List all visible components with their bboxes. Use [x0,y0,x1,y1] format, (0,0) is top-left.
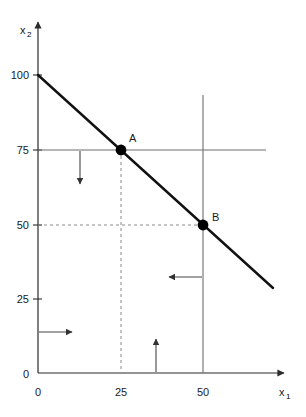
budget-line [38,75,273,288]
y-axis-title: x 2 [20,24,32,39]
y-tick-label-50: 50 [17,219,29,231]
point-b-label: B [212,211,219,223]
y-axis-title-base: x [20,24,26,36]
y-axis-title-subscript: 2 [27,30,32,39]
x-axis-title: x 1 [279,386,291,401]
point-b-marker [198,220,209,231]
x-axis-title-subscript: 1 [286,392,291,401]
y-tick-label-100: 100 [11,69,29,81]
y-tick-label-75: 75 [17,144,29,156]
budget-line-figure: A B 100 75 50 25 0 0 25 50 x 2 x 1 [0,0,306,417]
point-a-label: A [129,132,137,144]
plot-canvas: A B 100 75 50 25 0 0 25 50 x 2 x 1 [0,0,306,417]
x-tick-label-50: 50 [197,386,209,398]
origin-label: 0 [23,368,29,380]
y-tick-label-25: 25 [17,293,29,305]
x-axis-title-base: x [279,386,285,398]
axes-group [38,22,284,373]
constraint-lines-group [38,95,266,373]
x-tick-label-0: 0 [35,386,41,398]
guide-lines-group [38,150,203,373]
point-a-marker [116,145,127,156]
x-tick-label-25: 25 [115,386,127,398]
